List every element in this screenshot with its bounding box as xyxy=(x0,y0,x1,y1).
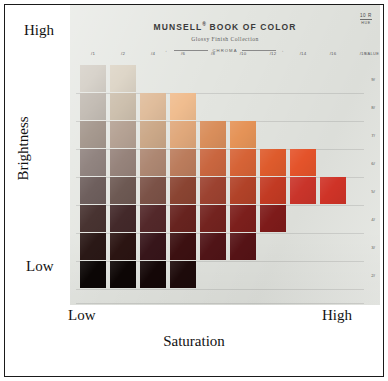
color-swatch xyxy=(230,233,256,260)
chroma-tick-label: /10 xyxy=(240,51,247,56)
chroma-tick-label: /1 xyxy=(91,51,95,56)
color-swatch xyxy=(110,93,136,120)
color-swatch xyxy=(290,177,316,204)
color-swatch xyxy=(80,177,106,204)
color-swatch xyxy=(230,177,256,204)
color-swatch xyxy=(80,121,106,148)
axis-label-brightness-high: High xyxy=(24,22,54,39)
color-swatch xyxy=(230,121,256,148)
chroma-tick-label: /8 xyxy=(211,51,215,56)
color-swatch xyxy=(110,233,136,260)
color-swatch xyxy=(140,233,166,260)
value-tick-label: 7/ xyxy=(371,132,375,137)
color-swatch xyxy=(110,121,136,148)
color-swatch xyxy=(200,149,226,176)
color-swatch xyxy=(140,177,166,204)
color-swatch xyxy=(140,121,166,148)
chroma-tick-label: /16 xyxy=(330,51,337,56)
title-brand: MUNSELL xyxy=(154,22,203,32)
chroma-tick-label: /6 xyxy=(181,51,185,56)
color-swatch xyxy=(140,261,166,288)
color-swatch xyxy=(260,177,286,204)
axis-title-saturation: Saturation xyxy=(0,333,388,350)
color-swatch xyxy=(140,149,166,176)
color-swatch xyxy=(290,149,316,176)
color-swatch xyxy=(110,65,136,92)
chart-subtitle: Glossy Finish Collection xyxy=(70,36,380,42)
grid-rule xyxy=(76,289,364,290)
color-swatch xyxy=(170,149,196,176)
hue-divider xyxy=(360,19,372,20)
hue-label: HUE xyxy=(360,21,372,25)
color-swatch xyxy=(170,233,196,260)
color-swatch xyxy=(170,93,196,120)
color-swatch xyxy=(170,205,196,232)
value-tick-label: 5/ xyxy=(371,188,375,193)
grid-rule xyxy=(76,303,364,304)
value-tick-label: 6/ xyxy=(371,160,375,165)
color-swatch xyxy=(110,261,136,288)
chroma-left-arrow-icon: ← xyxy=(165,48,171,53)
color-swatch xyxy=(260,205,286,232)
color-swatch xyxy=(200,177,226,204)
color-swatch xyxy=(110,177,136,204)
chroma-band-label: CHROMA xyxy=(212,48,237,53)
color-swatch xyxy=(80,205,106,232)
color-swatch xyxy=(110,205,136,232)
color-swatch xyxy=(200,205,226,232)
color-swatch xyxy=(320,177,346,204)
color-swatch xyxy=(80,233,106,260)
axis-label-saturation-low: Low xyxy=(68,307,96,324)
value-tick-label: 8/ xyxy=(371,104,375,109)
value-tick-label: 2/ xyxy=(371,272,375,277)
color-swatch xyxy=(260,149,286,176)
title-rest: BOOK OF COLOR xyxy=(209,22,296,32)
color-swatch xyxy=(80,65,106,92)
axis-label-brightness-low: Low xyxy=(26,258,54,275)
axis-title-brightness: Brightness xyxy=(15,116,32,180)
color-swatch xyxy=(140,205,166,232)
color-swatch xyxy=(200,233,226,260)
color-swatch xyxy=(170,261,196,288)
color-swatch xyxy=(170,177,196,204)
chroma-tick-label: /2 xyxy=(121,51,125,56)
chroma-right-arrow-icon: → xyxy=(280,48,286,53)
color-swatch xyxy=(140,93,166,120)
swatch-grid: /1/2/4/6/8/10/12/14/16/18VALUE9/8/7/6/5/… xyxy=(76,61,374,301)
registered-mark-icon: ® xyxy=(202,21,206,27)
chroma-tick-label: /12 xyxy=(270,51,277,56)
munsell-chart-figure: MUNSELL® BOOK OF COLOR Glossy Finish Col… xyxy=(0,0,388,381)
axis-label-saturation-high: High xyxy=(322,307,352,324)
color-swatch xyxy=(80,93,106,120)
hue-stamp: 10 R HUE xyxy=(360,13,372,25)
color-swatch xyxy=(80,261,106,288)
color-swatch xyxy=(230,149,256,176)
chroma-rule-left xyxy=(174,50,208,51)
value-tick-label: 3/ xyxy=(371,244,375,249)
color-swatch xyxy=(170,121,196,148)
hue-value: 10 R xyxy=(360,13,372,18)
chroma-tick-label: /14 xyxy=(300,51,307,56)
value-axis-caption: VALUE xyxy=(365,51,379,56)
chroma-tick-label: /4 xyxy=(151,51,155,56)
color-swatch xyxy=(200,121,226,148)
munsell-page: MUNSELL® BOOK OF COLOR Glossy Finish Col… xyxy=(70,5,380,305)
color-swatch xyxy=(230,205,256,232)
color-swatch xyxy=(80,149,106,176)
value-tick-label: 4/ xyxy=(371,216,375,221)
color-swatch xyxy=(110,149,136,176)
value-tick-label: 9/ xyxy=(371,76,375,81)
chart-title: MUNSELL® BOOK OF COLOR xyxy=(70,21,380,32)
